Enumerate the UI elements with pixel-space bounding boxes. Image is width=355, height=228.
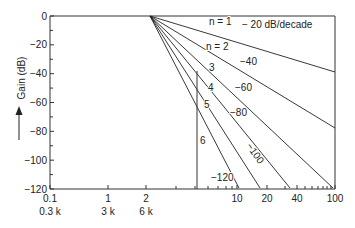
annotation-label: 6 <box>200 135 206 146</box>
y-axis-label: Gain (dB) <box>16 57 27 100</box>
x-tick-label: 10 <box>231 193 243 204</box>
annotation-label: 3 <box>209 62 215 73</box>
x-tick-sublabel: 0.3 k <box>39 206 62 217</box>
x-tick-label: 20 <box>261 193 273 204</box>
x-tick-label: 40 <box>291 193 303 204</box>
series-line-order-3 <box>150 16 333 188</box>
y-tick-label: −60 <box>30 97 47 108</box>
series-lines <box>150 16 335 188</box>
x-tick-sublabel: 3 k <box>101 206 115 217</box>
y-tick-label: −40 <box>30 68 47 79</box>
annotations: n = 1− 20 dB/decaden = 23−404−605−806−10… <box>200 16 313 183</box>
annotation-label: n = 1 <box>209 16 232 27</box>
x-ticks: 0.10.3 k13 k26 k102040100 <box>39 185 344 217</box>
annotation-label: −60 <box>235 82 252 93</box>
x-tick-label: 0.1 <box>43 193 57 204</box>
x-tick-sublabel: 6 k <box>139 206 153 217</box>
annotation-label: −80 <box>230 107 247 118</box>
y-tick-label: −20 <box>30 39 47 50</box>
y-tick-label: −80 <box>30 126 47 137</box>
annotation-label: −120 <box>211 172 234 183</box>
y-tick-label: 0 <box>41 11 47 22</box>
y-axis-label-group: Gain (dB) <box>16 57 28 140</box>
x-tick-label: 2 <box>143 193 149 204</box>
annotation-label: 4 <box>208 82 214 93</box>
annotation-label: n = 2 <box>206 41 229 52</box>
annotation-label: − 20 dB/decade <box>242 19 313 30</box>
x-tick-label: 100 <box>327 193 344 204</box>
arrow-up-icon <box>16 106 23 115</box>
annotation-label: 5 <box>204 99 210 110</box>
annotation-label: −40 <box>240 56 257 67</box>
gain-chart: 0−20−40−60−80−100−120 0.10.3 k13 k26 k10… <box>0 0 355 228</box>
x-tick-label: 1 <box>105 193 111 204</box>
annotation-label: −100 <box>244 141 266 166</box>
y-tick-label: −100 <box>24 155 47 166</box>
